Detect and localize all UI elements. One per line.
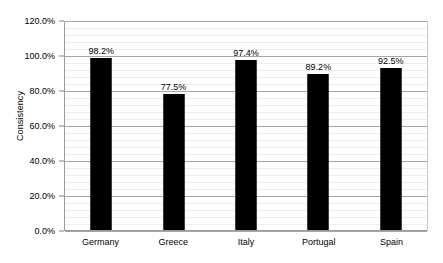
bar-value-label: 89.2% — [306, 62, 332, 72]
x-axis-tick-labels: GermanyGreeceItalyPortugalSpain — [64, 234, 428, 256]
bar — [91, 58, 112, 230]
gridline-major — [65, 231, 427, 232]
bar-value-label: 97.4% — [233, 48, 259, 58]
bar — [235, 60, 256, 230]
bar — [380, 68, 401, 230]
x-axis-tick-label: Greece — [158, 237, 188, 247]
y-axis-tick-labels: 0.0%20.0%40.0%60.0%80.0%100.0%120.0% — [0, 0, 59, 263]
x-axis-tick-label: Germany — [82, 237, 119, 247]
bar-value-label: 98.2% — [88, 46, 114, 56]
bar-chart: Consistency 0.0%20.0%40.0%60.0%80.0%100.… — [0, 0, 443, 263]
x-axis-tick-label: Portugal — [302, 237, 336, 247]
bars-layer: 98.2%77.5%97.4%89.2%92.5% — [65, 22, 427, 230]
x-axis-tick-label: Italy — [238, 237, 255, 247]
bar-group: 98.2% — [65, 22, 137, 230]
y-axis-tick-label: 0.0% — [0, 226, 59, 236]
y-axis-tick-label: 60.0% — [0, 121, 59, 131]
bar — [163, 94, 184, 230]
bar-group: 77.5% — [137, 22, 209, 230]
bar-group: 92.5% — [355, 22, 427, 230]
y-axis-tick-label: 40.0% — [0, 156, 59, 166]
plot-area: 98.2%77.5%97.4%89.2%92.5% — [64, 21, 428, 231]
x-axis-tick-label: Spain — [380, 237, 403, 247]
y-axis-tick-label: 100.0% — [0, 51, 59, 61]
y-axis-tick-label: 20.0% — [0, 191, 59, 201]
bar-value-label: 77.5% — [161, 82, 187, 92]
y-axis-tick-label: 120.0% — [0, 16, 59, 26]
bar-group: 97.4% — [210, 22, 282, 230]
bar — [308, 74, 329, 230]
y-axis-tick-label: 80.0% — [0, 86, 59, 96]
bar-value-label: 92.5% — [378, 56, 404, 66]
bar-group: 89.2% — [282, 22, 354, 230]
